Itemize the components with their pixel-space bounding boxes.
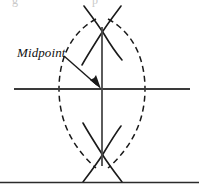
construction-drawing: [0, 0, 199, 191]
arc-right-dashed: [108, 19, 145, 168]
midpoint-label: Midpoint: [17, 46, 65, 59]
arc-left-dashed: [59, 19, 96, 168]
midpoint-arrowhead-icon: [90, 75, 101, 89]
midpoint-construction-figure: g p Midpoint: [0, 0, 199, 191]
